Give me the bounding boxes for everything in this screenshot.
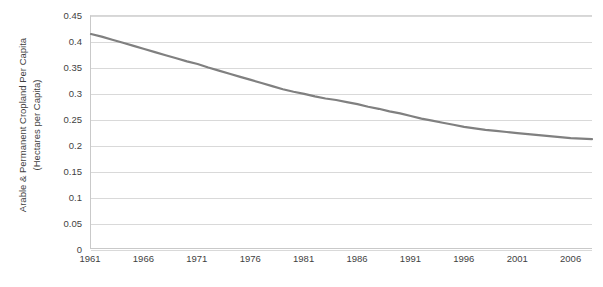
x-axis-tick-label: 1971 — [186, 253, 207, 264]
y-axis-tick-label: 0.3 — [69, 88, 82, 99]
x-axis-tick-label: 1981 — [293, 253, 314, 264]
x-axis-tick-label: 2001 — [507, 253, 528, 264]
x-axis-tick-label: 1966 — [133, 253, 154, 264]
y-axis-title-line-1: Arable & Permanent Cropland Per Capita — [16, 38, 30, 212]
y-axis-tick-labels: 0.450.40.350.30.250.20.150.10.050 — [44, 15, 86, 249]
x-axis-tick-label: 1986 — [346, 253, 367, 264]
y-axis-tick-label: 0.25 — [64, 114, 83, 125]
x-axis-tick-label: 2006 — [560, 253, 581, 264]
y-axis-tick-label: 0.05 — [64, 218, 83, 229]
x-axis-tick-label: 1976 — [240, 253, 261, 264]
y-axis-tick-label: 0.15 — [64, 166, 83, 177]
x-axis-tick-label: 1996 — [453, 253, 474, 264]
series-line-cropland-per-capita — [91, 34, 592, 139]
y-axis-tick-label: 0.45 — [64, 10, 83, 21]
x-axis-tick-labels: 1961196619711976198119861991199620012006 — [90, 253, 592, 273]
y-axis-tick-label: 0.1 — [69, 192, 82, 203]
gridline — [91, 250, 592, 251]
x-axis-tick-label: 1961 — [79, 253, 100, 264]
x-axis-tick-label: 1991 — [400, 253, 421, 264]
y-axis-tick-label: 0.4 — [69, 36, 82, 47]
series-line-chart — [91, 16, 592, 248]
chart-container: Arable & Permanent Cropland Per Capita (… — [0, 0, 603, 287]
y-axis-tick-label: 0.2 — [69, 140, 82, 151]
plot-area — [90, 15, 592, 249]
y-axis-tick-label: 0.35 — [64, 62, 83, 73]
y-axis-title-line-2: (Hectares per Capita) — [30, 38, 44, 212]
